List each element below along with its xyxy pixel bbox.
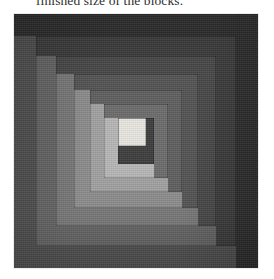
log-cabin-quilt-block-photograph — [14, 14, 258, 268]
ring-3-log-top — [56, 56, 216, 74]
ring-3-log-left — [56, 74, 74, 208]
outer-border-ring-log-bottom — [14, 246, 236, 268]
outer-border-ring-log-right — [236, 36, 258, 268]
caption-clip: finished size of the blocks. — [0, 0, 274, 9]
outer-border-ring-log-left — [14, 36, 36, 246]
ring-3-log-right — [198, 74, 216, 226]
outer-border-ring-log-top — [14, 14, 258, 36]
ring-2-log-top — [36, 36, 236, 56]
ring-5-log-bottom — [90, 178, 168, 192]
ring-4-log-right — [182, 90, 198, 208]
ring-3-log-bottom — [56, 208, 198, 226]
ring-6-log-left — [104, 118, 118, 164]
ring-6-log-bottom — [104, 164, 154, 178]
ring-5-log-right — [168, 104, 182, 192]
ring-5-log-left — [90, 104, 104, 178]
ring-2-log-bottom — [36, 226, 216, 246]
center-square — [118, 118, 146, 146]
ring-2-log-right — [216, 56, 236, 246]
caption-text: finished size of the blocks. — [36, 0, 246, 8]
ring-6-log-top — [104, 104, 168, 118]
ring-2-log-left — [36, 56, 56, 226]
ring-4-log-bottom — [74, 192, 182, 208]
ring-6-log-right — [154, 118, 168, 178]
ring-5-log-top — [90, 90, 182, 104]
page-canvas: finished size of the blocks. — [0, 0, 274, 279]
ring-4-log-top — [74, 74, 198, 90]
ring-4-log-left — [74, 90, 90, 192]
